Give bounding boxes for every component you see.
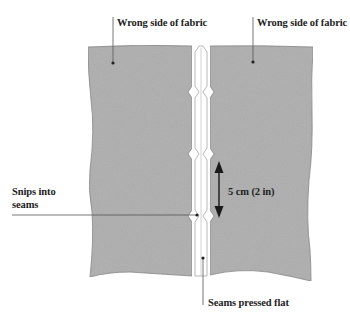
label-wrong-side-left: Wrong side of fabric [117,17,207,29]
fabric-right-panel [210,46,313,281]
label-snips-line1: Snips into [12,186,56,198]
fabric-left-panel [88,45,192,277]
leader-dot-snips [195,213,198,216]
label-snips-line2: seams [12,199,38,211]
leader-dot-wrong-side-left [111,61,114,64]
label-seams-pressed: Seams pressed flat [208,297,289,309]
diagram-stage: Wrong side of fabric Wrong side of fabri… [0,0,350,314]
diagram-canvas [0,0,350,314]
leader-dot-seams-pressed [201,256,204,259]
label-wrong-side-right: Wrong side of fabric [257,17,347,29]
leader-dot-wrong-side-right [251,60,254,63]
label-measurement: 5 cm (2 in) [228,186,274,198]
